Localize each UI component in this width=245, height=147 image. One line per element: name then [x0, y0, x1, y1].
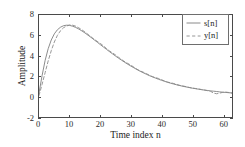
y-tick-mark-right	[230, 14, 233, 15]
x-tick-mark-top	[100, 14, 101, 17]
legend-item-y-n: y[n]	[186, 30, 225, 42]
y-tick-mark-right	[230, 97, 233, 98]
y-tick-label: 2	[30, 71, 34, 81]
y-tick-label: 4	[30, 51, 34, 61]
x-tick-mark	[131, 115, 132, 118]
x-tick-label: 10	[65, 119, 74, 129]
y-tick-mark-right	[230, 56, 233, 57]
x-tick-mark	[100, 115, 101, 118]
x-tick-mark	[162, 115, 163, 118]
y-tick-mark-right	[230, 35, 233, 36]
x-tick-mark	[224, 115, 225, 118]
y-tick-label: 0	[30, 92, 34, 102]
legend-swatch-dashed	[186, 32, 201, 40]
legend-item-s-n: s[n]	[186, 17, 225, 29]
x-tick-mark	[69, 115, 70, 118]
y-tick-mark	[38, 14, 41, 15]
x-tick-label: 40	[158, 119, 167, 129]
y-axis-title: Amplitude	[17, 46, 27, 87]
x-tick-mark-top	[69, 14, 70, 17]
figure: Amplitude 0102030405060-202468 Time inde…	[0, 0, 245, 147]
x-tick-mark-top	[162, 14, 163, 17]
x-tick-label: 30	[127, 119, 136, 129]
y-tick-mark	[38, 118, 41, 119]
x-tick-mark-top	[131, 14, 132, 17]
x-tick-mark	[193, 115, 194, 118]
legend-swatch-solid	[186, 19, 201, 27]
y-tick-label: 8	[30, 9, 34, 19]
y-tick-mark	[38, 35, 41, 36]
legend-label-s-n: s[n]	[204, 19, 217, 28]
legend: s[n] y[n]	[182, 14, 229, 45]
y-tick-label: -2	[27, 113, 34, 123]
y-tick-mark-right	[230, 76, 233, 77]
x-tick-label: 20	[96, 119, 105, 129]
y-tick-mark	[38, 56, 41, 57]
y-tick-mark-right	[230, 118, 233, 119]
x-tick-label: 50	[189, 119, 198, 129]
y-tick-mark	[38, 97, 41, 98]
y-tick-label: 6	[30, 30, 34, 40]
x-tick-label: 0	[36, 119, 40, 129]
x-tick-label: 60	[219, 119, 228, 129]
x-axis-title: Time index n	[38, 130, 233, 140]
legend-label-y-n: y[n]	[204, 31, 218, 40]
y-tick-mark	[38, 76, 41, 77]
